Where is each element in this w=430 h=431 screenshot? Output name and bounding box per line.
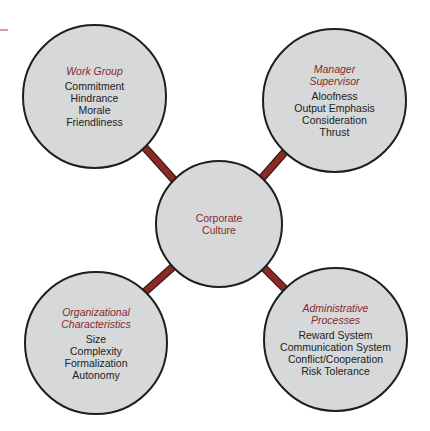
organizational-characteristics-title: Characteristics	[61, 318, 130, 330]
work-group-circle: Work Group Commitment Hindrance Morale F…	[22, 24, 167, 169]
administrative-processes-title: Processes	[311, 314, 360, 326]
organizational-characteristics-item: Autonomy	[72, 369, 119, 381]
work-group-item: Morale	[78, 104, 110, 116]
work-group-item: Hindrance	[71, 92, 119, 104]
organizational-characteristics-item: Size	[86, 333, 106, 345]
work-group-item: Commitment	[65, 80, 125, 92]
manager-supervisor-item: Aloofness	[311, 90, 357, 102]
work-group-title: Work Group	[66, 65, 123, 77]
administrative-processes-title: Administrative	[303, 302, 369, 314]
organizational-characteristics-item: Formalization	[64, 357, 127, 369]
work-group-item: Friendliness	[66, 116, 123, 128]
organizational-characteristics-item: Complexity	[70, 345, 122, 357]
administrative-processes-item: Conflict/Cooperation	[288, 353, 383, 365]
organizational-characteristics-title: Organizational	[62, 306, 130, 318]
manager-supervisor-item: Output Emphasis	[294, 102, 375, 114]
administrative-processes-item: Risk Tolerance	[301, 365, 370, 377]
administrative-processes-item: Reward System	[298, 329, 372, 341]
corporate-culture-title: Corporate	[196, 212, 243, 224]
organizational-characteristics-circle: Organizational Characteristics Size Comp…	[24, 271, 168, 415]
manager-supervisor-circle: Manager Supervisor Aloofness Output Emph…	[262, 28, 407, 173]
manager-supervisor-item: Consideration	[302, 114, 367, 126]
manager-supervisor-item: Thrust	[320, 126, 350, 138]
corporate-culture-diagram: Work Group Commitment Hindrance Morale F…	[0, 0, 430, 431]
manager-supervisor-title: Supervisor	[309, 75, 359, 87]
corporate-culture-title: Culture	[202, 224, 236, 236]
manager-supervisor-title: Manager	[314, 63, 355, 75]
administrative-processes-circle: Administrative Processes Reward System C…	[263, 267, 408, 412]
administrative-processes-item: Communication System	[280, 341, 391, 353]
corporate-culture-circle: Corporate Culture	[155, 160, 283, 288]
